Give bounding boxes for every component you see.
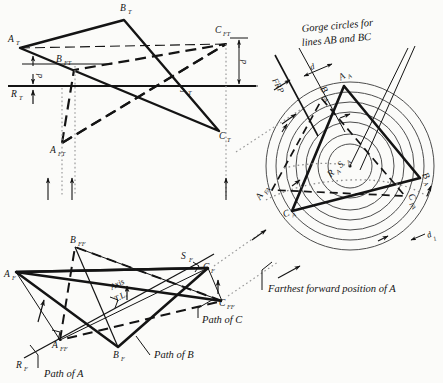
d-dimension-label-left: d [34,73,44,78]
path-of-a-arrow [38,300,44,322]
label-c-t: C [219,131,226,141]
label-a-ff-sub: FF [59,345,68,352]
label-b-a: B [420,171,432,181]
top-view-sightline-a-to-s [20,44,226,48]
farthest-forward-label: Farthest forward position of A [267,283,396,294]
gorge-heading-leader-2 [360,46,415,170]
label-b-t-sub: T [128,8,132,15]
front-view-construction-2 [60,268,208,340]
label-r-t-sub: T [19,94,23,101]
label-b-ff: B [70,235,76,245]
top-view-triangle-abc [20,20,219,131]
label-c-a-sub: A [290,210,297,218]
auxiliary-d1-arrow [411,234,425,240]
label-s-t-sub: T [188,89,192,96]
label-s-f-sub: F [188,256,193,263]
label-a-f-sub: F [11,274,16,281]
label-a-ff: A [51,340,58,350]
label-s-f: S [181,251,186,261]
circle-direction-arrow-4 [340,114,350,118]
projector-diagonal-arrow-2 [252,230,266,240]
auxiliary-d1-sublabel: 1 [432,234,437,242]
label-r-f-sub: F [23,365,28,372]
label-c-ff-sub: FF [226,303,235,310]
label-c-ft-sub: FT [222,30,231,37]
label-b-ff-sub: FF [77,240,86,247]
path-of-a-leader [30,345,38,368]
drawing-sheet: A T B T C T B FT C FT A FT R T S T d d [0,0,443,383]
label-c-f-sub: F [210,267,215,274]
right-angle-mark-aff [52,330,60,340]
gorge-heading-line2: lines AB and BC [301,31,372,48]
auxiliary-d-label: d [309,61,317,72]
path-of-b-label: Path of B [153,349,194,360]
auxiliary-d-arrow-right [318,64,332,70]
path-of-c-label: Path of C [201,314,243,325]
frp-label: FRP [270,75,287,94]
label-r-f: R [15,360,22,370]
front-view-axis-extension [200,254,214,262]
label-a-ft: A [49,145,56,155]
path-of-a-label: Path of A [43,368,84,379]
label-c-ff: C [219,298,226,308]
label-c-f: C [203,262,210,272]
path-of-b-leader [136,336,150,355]
gorge-heading-leader [350,48,408,166]
label-c-ft: C [215,25,222,35]
label-c-t-sub: T [227,136,231,143]
label-a-ft-sub: FT [57,150,66,157]
label-a-a: A [336,71,347,83]
label-a-t-sub: T [16,39,20,46]
front-view-construction-3 [16,272,60,340]
top-view-group: A T B T C T B FT C FT A FT R T S T d d [7,3,258,200]
label-b-t: B [120,3,126,13]
label-b-f: B [113,350,119,360]
label-b-ft-sub: FT [63,59,72,66]
label-b-ft: B [56,54,62,64]
front-view-group: A F B F C F S F B FF A FF C FF R F Axis … [3,235,300,379]
top-view-point-labels: A T B T C T B FT C FT A FT R T S T [7,3,231,157]
front-view-point-labels: A F B F C F S F B FF A FF C FF R F [3,235,235,372]
label-s-t: S [180,84,185,94]
label-a-fa-sub: FA [262,186,272,196]
circle-direction-arrow-2 [378,236,388,241]
farthest-forward-arrow [278,266,300,278]
engineering-drawing-canvas: A T B T C T B FT C FT A FT R T S T d d [0,0,443,383]
auxiliary-view-group: Gorge circles for lines AB and BC FRP d … [253,17,437,250]
label-a-t: A [7,34,14,44]
projector-diagonal-arrow-1 [282,114,296,124]
label-b-f-sub: F [120,355,125,362]
label-r-t: R [10,89,17,99]
axis-label-line2: T.L. [112,289,128,304]
label-a-f: A [3,269,10,279]
